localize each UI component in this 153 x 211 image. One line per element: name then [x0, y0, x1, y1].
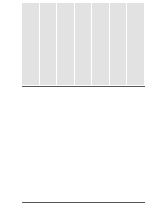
header-gram	[75, 3, 93, 85]
header-milligram	[127, 3, 145, 85]
header-hectogram	[40, 3, 58, 85]
header-centigram	[110, 3, 128, 85]
header-decigram	[92, 3, 110, 85]
column-headers	[22, 3, 145, 85]
table-body-border	[22, 86, 145, 203]
place-value-chart	[0, 0, 153, 211]
header-dekagram	[57, 3, 75, 85]
header-kilogram	[22, 3, 40, 85]
